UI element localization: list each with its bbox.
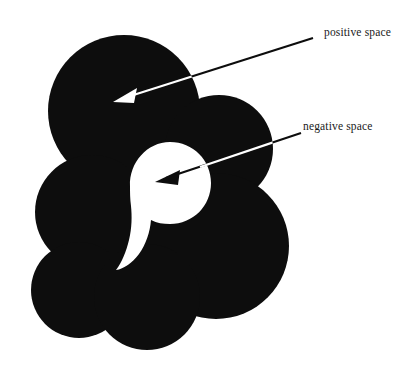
- figure-root: positive space negative space: [0, 0, 415, 387]
- label-positive-space: positive space: [324, 26, 391, 39]
- positive-negative-space-figure: [0, 0, 415, 387]
- disc-bottom-center: [94, 244, 200, 350]
- label-negative-space: negative space: [303, 120, 372, 133]
